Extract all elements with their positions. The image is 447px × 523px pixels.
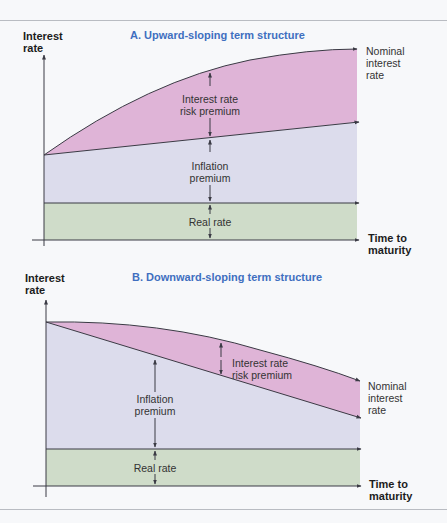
nominal-rate-label: Nominal interest rate: [366, 45, 405, 81]
real-rate-band: [46, 449, 360, 486]
panel-a-title: A. Upward-sloping term structure: [130, 29, 305, 41]
panel-b: [33, 300, 361, 497]
real-rate-label: Real rate: [170, 216, 250, 228]
x-axis-label: Time to maturity: [369, 478, 412, 502]
real-rate-label: Real rate: [115, 462, 195, 474]
inflation-premium-label: Inflation premium: [170, 160, 250, 184]
risk-premium-label: Interest rate risk premium: [232, 357, 292, 381]
risk-premium-label: Interest rate risk premium: [165, 93, 255, 117]
x-axis-label: Time to maturity: [368, 232, 411, 256]
y-axis-label: Interest rate: [23, 30, 63, 54]
y-axis-label: Interest rate: [25, 272, 65, 296]
nominal-rate-label: Nominal interest rate: [368, 380, 407, 416]
panel-b-title: B. Downward-sloping term structure: [132, 271, 322, 283]
inflation-premium-label: Inflation premium: [115, 393, 195, 417]
